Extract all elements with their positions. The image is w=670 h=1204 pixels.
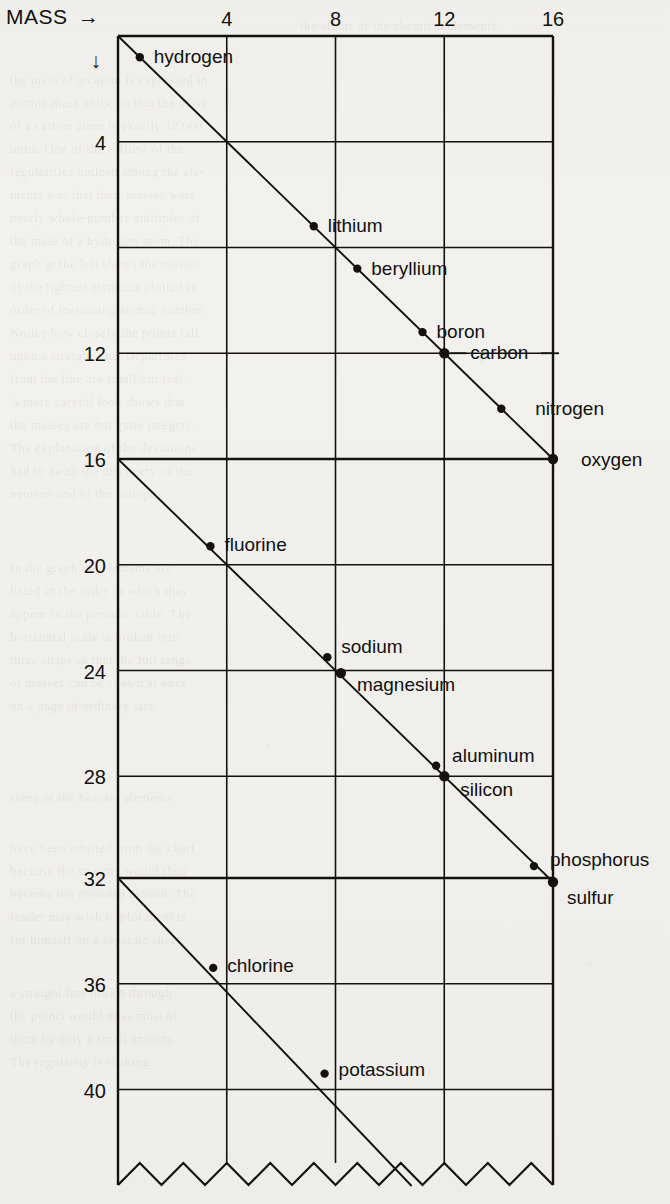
data-point-sodium xyxy=(323,653,331,661)
point-label-potassium: potassium xyxy=(339,1059,426,1080)
point-label-magnesium: magnesium xyxy=(357,674,455,695)
point-label-lithium: lithium xyxy=(328,215,383,236)
data-point-boron xyxy=(418,328,426,336)
y-tick-20: 20 xyxy=(84,555,106,577)
data-point-silicon xyxy=(439,771,449,781)
data-point-phosphorus xyxy=(530,862,538,870)
y-tick-16: 16 xyxy=(84,449,106,471)
point-label-sulfur: sulfur xyxy=(567,887,614,908)
data-point-chlorine xyxy=(209,964,217,972)
data-point-nitrogen xyxy=(497,405,505,413)
point-label-sodium: sodium xyxy=(341,636,402,657)
mass-chart-svg: hydrogenlithiumberylliumboroncarbonnitro… xyxy=(0,0,670,1204)
data-point-fluorine xyxy=(206,542,214,550)
x-tick-12: 12 xyxy=(433,8,455,30)
y-tick-24: 24 xyxy=(84,661,106,683)
data-point-magnesium xyxy=(336,668,346,678)
mass-line-band-3 xyxy=(118,878,412,1186)
point-label-boron: boron xyxy=(437,321,486,342)
data-point-beryllium xyxy=(353,264,361,272)
x-tick-16: 16 xyxy=(542,8,564,30)
y-tick-32: 32 xyxy=(84,868,106,890)
point-label-aluminum: aluminum xyxy=(452,745,534,766)
point-label-oxygen: oxygen xyxy=(581,449,642,470)
x-axis-tick-labels: 481216 xyxy=(221,8,564,30)
point-label-silicon: silicon xyxy=(460,779,513,800)
point-label-nitrogen: nitrogen xyxy=(535,398,604,419)
point-label-phosphorus: phosphorus xyxy=(550,849,649,870)
zigzag-break xyxy=(118,1163,553,1185)
x-tick-8: 8 xyxy=(330,8,341,30)
x-tick-4: 4 xyxy=(221,8,232,30)
data-point-lithium xyxy=(310,222,318,230)
y-axis-arrow-icon: ↓ xyxy=(91,49,102,72)
y-tick-4: 4 xyxy=(95,132,106,154)
data-point-oxygen xyxy=(548,454,558,464)
data-point-aluminum xyxy=(432,762,440,770)
point-labels: hydrogenlithiumberylliumboroncarbonnitro… xyxy=(154,46,649,1079)
point-label-beryllium: beryllium xyxy=(371,258,447,279)
y-axis-tick-labels: 41216202428323640 xyxy=(84,132,106,1102)
axis-titles: MASS→↓ xyxy=(6,5,102,72)
y-tick-12: 12 xyxy=(84,343,106,365)
x-axis-title: MASS xyxy=(6,5,68,28)
data-point-sulfur xyxy=(548,877,558,887)
x-axis-arrow-icon: → xyxy=(78,5,100,28)
mass-chart-figure: the atoms of the chemical elementsthe ma… xyxy=(0,0,670,1204)
y-tick-40: 40 xyxy=(84,1080,106,1102)
data-point-carbon xyxy=(439,348,449,358)
data-point-hydrogen xyxy=(136,53,144,61)
grid-lines xyxy=(118,36,553,1163)
axis-break-zigzag xyxy=(118,1163,553,1185)
y-tick-28: 28 xyxy=(84,766,106,788)
point-label-hydrogen: hydrogen xyxy=(154,46,233,67)
point-label-fluorine: fluorine xyxy=(224,534,286,555)
data-point-potassium xyxy=(320,1069,328,1077)
point-label-chlorine: chlorine xyxy=(227,955,294,976)
point-label-carbon: carbon xyxy=(470,342,528,363)
y-tick-36: 36 xyxy=(84,974,106,996)
